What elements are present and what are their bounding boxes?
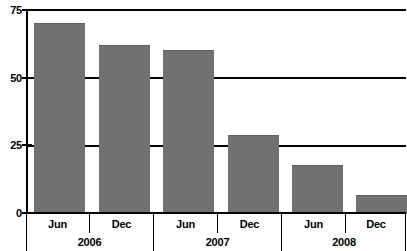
x-month-separator-1 bbox=[89, 214, 90, 233]
x-month-separator-5 bbox=[345, 214, 346, 233]
bar-2007-jun bbox=[163, 50, 214, 214]
x-month-separator-4 bbox=[281, 214, 282, 233]
x-month-separator-2 bbox=[153, 214, 154, 233]
x-axis: Jun Dec Jun Dec Jun Dec 2006 2007 2008 bbox=[26, 214, 406, 251]
y-tick-label-75: 75 bbox=[0, 5, 22, 16]
x-year-separator-1 bbox=[153, 233, 154, 251]
y-tick-label-25: 25 bbox=[0, 140, 22, 151]
y-tick-label-0: 0 bbox=[0, 208, 22, 219]
x-label-year-2008: 2008 bbox=[282, 233, 406, 251]
bar-2006-dec bbox=[99, 45, 150, 214]
x-label-month-2: Dec bbox=[90, 214, 153, 233]
y-tick-label-50: 50 bbox=[0, 73, 22, 84]
x-label-year-2007: 2007 bbox=[154, 233, 281, 251]
x-year-separator-3 bbox=[405, 233, 406, 251]
x-axis-month-band: Jun Dec Jun Dec Jun Dec bbox=[26, 214, 406, 233]
x-year-separator-2 bbox=[281, 233, 282, 251]
x-month-separator-6 bbox=[405, 214, 406, 233]
bar-2006-jun bbox=[34, 23, 85, 214]
plot-area bbox=[26, 9, 406, 214]
x-label-month-5: Jun bbox=[282, 214, 345, 233]
x-label-year-2006: 2006 bbox=[26, 233, 153, 251]
x-year-separator-0 bbox=[26, 233, 27, 251]
y-axis: 75 50 25 0 bbox=[0, 0, 22, 251]
bars-layer bbox=[26, 9, 406, 214]
x-axis-year-band: 2006 2007 2008 bbox=[26, 233, 406, 251]
x-month-separator-3 bbox=[217, 214, 218, 233]
x-label-month-1: Jun bbox=[26, 214, 89, 233]
x-label-month-4: Dec bbox=[218, 214, 281, 233]
x-label-month-3: Jun bbox=[154, 214, 217, 233]
x-label-month-6: Dec bbox=[346, 214, 406, 233]
bar-2007-dec bbox=[228, 135, 279, 214]
x-month-separator-0 bbox=[26, 214, 27, 233]
bar-2008-jun bbox=[292, 165, 343, 214]
